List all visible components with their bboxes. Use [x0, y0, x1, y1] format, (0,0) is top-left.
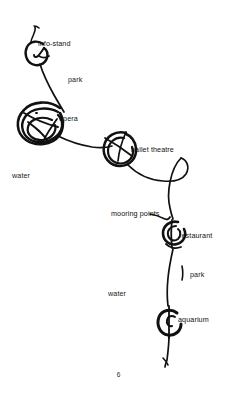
sketch-drawing	[0, 0, 237, 399]
path-top-tail	[31, 27, 35, 42]
label-mooring-points: mooring points	[111, 210, 160, 218]
label-water-lower: water	[108, 290, 126, 298]
label-restaurant: restaurant	[179, 232, 212, 240]
label-opera: opera	[59, 115, 78, 123]
label-water-upper: water	[12, 172, 30, 180]
path-park-lower-tick	[182, 266, 183, 280]
marker-restaurant-stem	[171, 220, 172, 248]
page-number: 6	[0, 371, 237, 378]
path-restaurant-to-aquarium	[167, 249, 173, 306]
label-info-stand: info-stand	[38, 40, 71, 48]
label-ballet-theatre: ballet theatre	[131, 146, 174, 154]
label-park-lower: park	[190, 271, 204, 279]
marker-info-stand-hook	[39, 56, 49, 58]
label-park-upper: park	[68, 76, 82, 84]
sketch-page: info-stand opera ballet theatre mooring …	[0, 0, 237, 399]
label-aquarium: aquarium	[178, 316, 209, 324]
path-mooring-descend	[169, 158, 182, 219]
marker-aquarium-inner	[167, 316, 175, 326]
